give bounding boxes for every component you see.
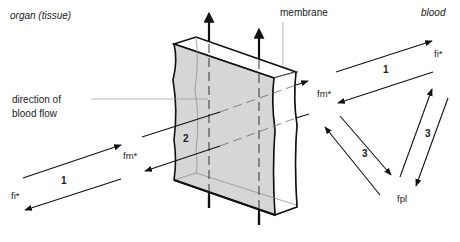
membrane-label: membrane bbox=[280, 7, 328, 19]
flow-label-line1: direction of bbox=[12, 94, 61, 106]
fm-left-label: fm* bbox=[123, 150, 137, 162]
region-label-blood: blood bbox=[421, 7, 445, 19]
process-1-left-arrows bbox=[23, 145, 121, 210]
process-3-left-number: 3 bbox=[362, 148, 368, 160]
process-1-right-number: 1 bbox=[383, 64, 389, 76]
fi-right-label: fi* bbox=[434, 48, 442, 60]
fm-right-label: fm* bbox=[317, 88, 331, 100]
membrane-slab bbox=[173, 37, 297, 215]
membrane-transport-diagram bbox=[0, 0, 460, 242]
flow-label-line2: blood flow bbox=[12, 108, 57, 120]
process-3-right-number: 3 bbox=[425, 128, 431, 140]
fi-left-label: fi* bbox=[11, 190, 19, 202]
region-label-organ: organ (tissue) bbox=[10, 10, 71, 22]
process-2-number: 2 bbox=[183, 133, 189, 145]
process-3-arrows bbox=[325, 89, 448, 195]
fpl-label: fpl bbox=[397, 193, 407, 205]
process-1-left-number: 1 bbox=[61, 175, 67, 187]
